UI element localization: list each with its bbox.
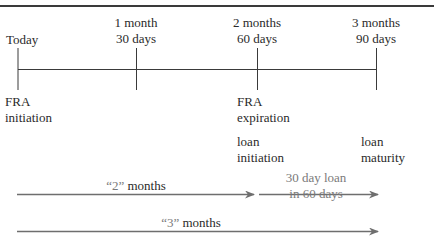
fra-initiation-line2: initiation [5,110,52,126]
label-loan-maturity: loan maturity [361,134,405,166]
quote-2: “2” [106,178,124,193]
label-2-months-days: 60 days [233,31,281,47]
label-1-month: 1 month 30 days [115,15,158,47]
label-1-month-months: 1 month [115,15,158,31]
label-fra-initiation: FRA initiation [5,94,52,126]
label-loan-initiation: loan initiation [237,134,284,166]
label-fra-expiration: FRA expiration [237,94,290,126]
loan-initiation-line1: loan [237,134,284,150]
months-word-2: months [128,178,166,193]
loan-initiation-line2: initiation [237,150,284,166]
label-2-months-months: 2 months [233,15,281,31]
loan-maturity-line2: maturity [361,150,405,166]
fra-expiration-line1: FRA [237,94,290,110]
label-2-months: 2 months 60 days [233,15,281,47]
fra-initiation-line1: FRA [5,94,52,110]
label-3-months-months: 3 months [352,15,400,31]
fra-expiration-line2: expiration [237,110,290,126]
label-1-month-days: 30 days [115,31,158,47]
label-3-months: 3 months 90 days [352,15,400,47]
loan-period-line1: 30 day loan [286,170,347,186]
loan-maturity-line1: loan [361,134,405,150]
label-arrow-2-months: “2” months [106,178,166,194]
label-today: Today [6,32,38,48]
quote-3: “3” [161,215,179,230]
label-loan-period: 30 day loan in 60 days [286,170,347,202]
label-3-months-days: 90 days [352,31,400,47]
months-word-3: months [183,215,221,230]
label-arrow-3-months: “3” months [161,215,221,231]
loan-period-line2: in 60 days [286,186,347,202]
